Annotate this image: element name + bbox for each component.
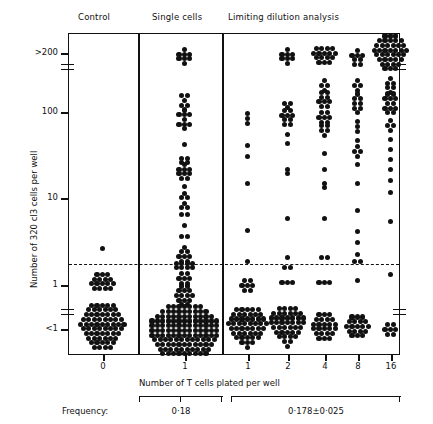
panel-header-single-cells: Single cells <box>152 12 202 22</box>
data-point <box>185 205 190 210</box>
data-point <box>319 104 324 109</box>
data-point <box>322 336 327 341</box>
data-point <box>352 62 357 67</box>
data-point <box>185 176 190 181</box>
data-point <box>325 104 330 109</box>
data-point <box>185 195 190 200</box>
data-point <box>355 208 360 213</box>
data-point <box>245 121 250 126</box>
data-point <box>355 252 360 257</box>
data-point <box>116 331 121 336</box>
data-point <box>288 265 293 270</box>
data-point <box>327 336 332 341</box>
y-tick-mark <box>61 112 68 114</box>
data-point <box>330 331 335 336</box>
data-point <box>285 255 290 260</box>
data-point <box>182 142 187 147</box>
data-point <box>174 265 179 270</box>
data-point <box>288 122 293 127</box>
data-point <box>182 223 187 228</box>
data-point <box>388 219 393 224</box>
data-point <box>250 340 255 345</box>
x-tick-label-2: 2 <box>268 361 308 371</box>
data-point <box>179 212 184 217</box>
data-point <box>316 280 321 285</box>
data-point <box>385 332 390 337</box>
data-point <box>355 333 360 338</box>
data-point <box>261 326 266 331</box>
panel-header-control: Control <box>78 12 110 22</box>
data-point <box>322 151 327 156</box>
frequency-bracket-lda <box>231 396 401 397</box>
axis-break-lower-left <box>61 309 74 310</box>
axis-break-lower-right <box>393 309 406 310</box>
data-point <box>290 280 295 285</box>
data-point <box>245 259 250 264</box>
frequency-bracket-single-right <box>221 396 222 402</box>
frequency-label: Frequency: <box>62 406 108 416</box>
data-point <box>355 110 360 115</box>
data-point <box>97 345 102 350</box>
data-point <box>285 132 290 137</box>
y-tick-label-1: 1 <box>16 279 58 289</box>
data-point <box>108 345 113 350</box>
data-point <box>166 351 171 356</box>
data-point <box>203 351 208 356</box>
frequency-value-lda: 0·178±0·025 <box>266 406 366 416</box>
data-point <box>391 332 396 337</box>
data-point <box>103 345 108 350</box>
y-tick-label-gt200: >200 <box>16 47 58 57</box>
data-point <box>285 141 290 146</box>
data-point <box>285 216 290 221</box>
data-point <box>190 293 195 298</box>
data-point <box>322 167 327 172</box>
data-point <box>187 122 192 127</box>
data-point <box>385 110 390 115</box>
threshold-dashed-line <box>69 264 399 265</box>
data-point <box>187 112 192 117</box>
data-point <box>185 212 190 217</box>
data-point <box>388 157 393 162</box>
data-point <box>176 56 181 61</box>
data-point <box>198 351 203 356</box>
data-point <box>279 280 284 285</box>
data-point <box>179 234 184 239</box>
x-tick-label-16: 16 <box>371 361 411 371</box>
axis-break-upper-left <box>61 64 74 65</box>
data-point <box>179 205 184 210</box>
data-point <box>355 162 360 167</box>
data-point <box>325 255 330 260</box>
data-point <box>285 61 290 66</box>
data-point <box>316 336 321 341</box>
data-point <box>242 288 247 293</box>
data-point <box>360 333 365 338</box>
data-point <box>176 112 181 117</box>
frequency-bracket-single-center <box>180 396 181 402</box>
data-point <box>182 61 187 66</box>
data-point <box>245 345 250 350</box>
data-point <box>293 334 298 339</box>
data-point <box>282 265 287 270</box>
data-point <box>245 181 250 186</box>
y-tick-label-100: 100 <box>16 106 58 116</box>
data-point <box>316 60 321 65</box>
data-point <box>187 56 192 61</box>
data-point <box>160 351 165 356</box>
frequency-bracket-lda-right <box>399 396 400 402</box>
data-point <box>279 56 284 61</box>
data-point <box>322 185 327 190</box>
x-axis-title: Number of T cells plated per well <box>139 378 280 388</box>
data-point <box>349 333 354 338</box>
data-point <box>355 181 360 186</box>
axis-break-upper-right <box>393 69 406 70</box>
x-tick-label-1: 1 <box>228 361 268 371</box>
data-point <box>382 66 387 71</box>
axis-break-upper-right <box>393 64 406 65</box>
data-point <box>179 195 184 200</box>
data-point <box>92 345 97 350</box>
axis-break-upper-left <box>61 69 74 70</box>
data-point <box>245 143 250 148</box>
data-point <box>322 216 327 221</box>
data-point <box>187 351 192 356</box>
data-point <box>182 184 187 189</box>
